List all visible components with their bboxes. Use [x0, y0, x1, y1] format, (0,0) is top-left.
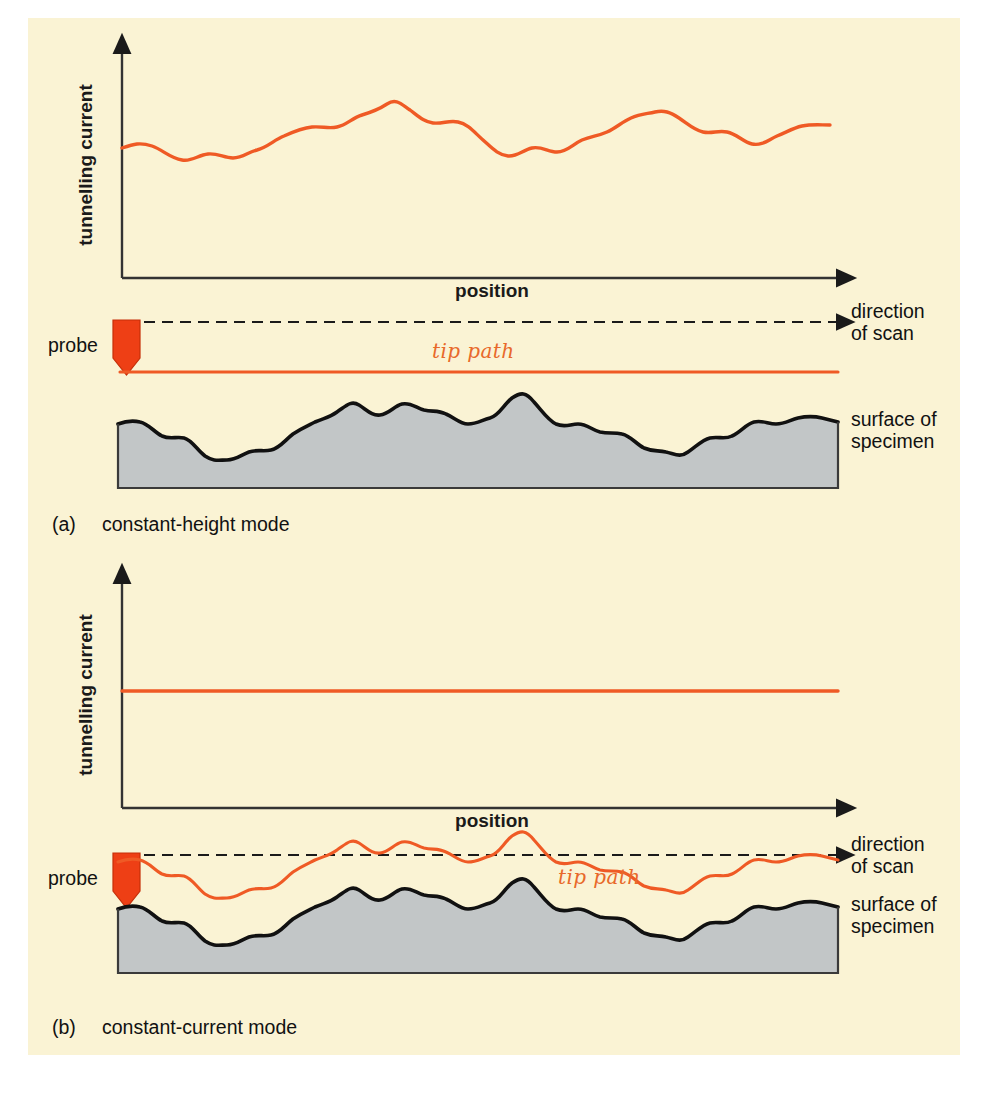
panel-a-caption-text: constant-height mode — [102, 513, 290, 535]
panel-a-current-curve — [122, 102, 830, 161]
panel-a-y-axis-label: tunnelling current — [75, 84, 96, 246]
panel-a: tunnelling current position direction of… — [48, 52, 937, 535]
panel-a-tip-path-label: tip path — [432, 339, 514, 363]
panel-a-probe-label: probe — [48, 334, 98, 356]
panel-b-y-axis-label: tunnelling current — [75, 614, 96, 776]
panel-b-probe-label: probe — [48, 867, 98, 889]
panel-b-x-axis-label: position — [455, 810, 529, 831]
panel-a-scan-direction-label-line2: of scan — [851, 322, 914, 344]
panel-a-x-axis-label: position — [455, 280, 529, 301]
panel-b-caption-text: constant-current mode — [102, 1016, 297, 1038]
panel-b-tip-path-line — [118, 832, 838, 898]
stm-modes-figure: tunnelling current position direction of… — [0, 0, 998, 1097]
panel-b-surface-label-line2: specimen — [851, 915, 934, 937]
panel-b-caption-letter: (b) — [52, 1016, 76, 1038]
panel-a-surface-fill — [118, 394, 838, 488]
panel-b-surface-label-line1: surface of — [851, 893, 937, 915]
panel-b-surface-fill — [118, 879, 838, 973]
panel-a-caption-letter: (a) — [52, 513, 76, 535]
panel-a-surface-label-line2: specimen — [851, 430, 934, 452]
panel-b-scan-direction-label-line1: direction — [851, 833, 925, 855]
panel-b-scan-direction-label-line2: of scan — [851, 855, 914, 877]
panel-a-scan-direction-label-line1: direction — [851, 300, 925, 322]
panel-b-tip-path-label: tip path — [558, 865, 640, 889]
panel-a-surface-label-line1: surface of — [851, 408, 937, 430]
panel-a-probe-icon — [113, 320, 140, 375]
panel-b: tunnelling current position direction of… — [48, 582, 937, 1038]
